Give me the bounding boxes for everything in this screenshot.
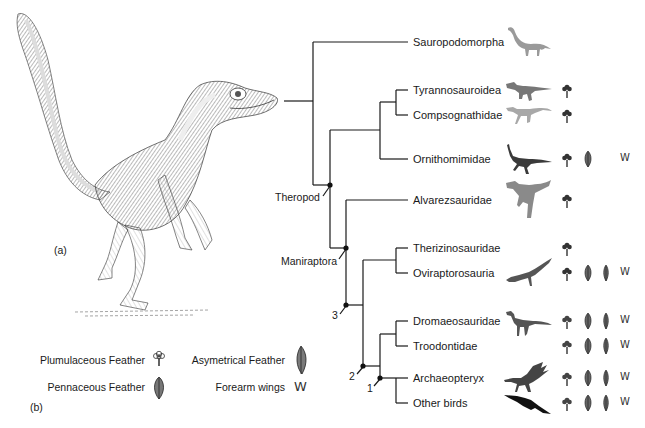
plumulaceous-feather-icon xyxy=(561,153,573,167)
maniraptora-node xyxy=(343,245,348,250)
pennaceous-feather-icon xyxy=(583,337,593,355)
forearm-wings-icon: W xyxy=(620,152,630,163)
pennaceous-feather-icon xyxy=(583,394,593,412)
pennaceous-feather-icon xyxy=(583,369,593,387)
taxon-compsognathidae: Compsognathidae xyxy=(413,109,502,122)
node-1 xyxy=(377,375,382,380)
archaeopteryx-silhouette-icon xyxy=(503,362,553,394)
forearm-wings-icon: W xyxy=(620,371,630,382)
taxon-oviraptorosauria: Oviraptorosauria xyxy=(413,267,494,280)
asymmetrical-feather-icon xyxy=(601,264,610,282)
oviraptorosaur-silhouette-icon xyxy=(505,258,553,288)
plumulaceous-feather-icon xyxy=(561,340,573,354)
tyrannosaur-silhouette-icon xyxy=(505,81,553,103)
forearm-wings-icon: W xyxy=(620,314,630,325)
plumulaceous-feather-icon xyxy=(561,372,573,386)
plumulaceous-feather-icon xyxy=(561,315,573,329)
node-3 xyxy=(343,302,348,307)
taxon-tyrannosauroidea: Tyrannosauroidea xyxy=(413,84,501,97)
node-label-theropod: Theropod xyxy=(275,191,320,203)
ornithomimid-silhouette-icon xyxy=(505,144,553,176)
pennaceous-feather-icon xyxy=(583,150,593,168)
forearm-wings-icon: W xyxy=(620,266,630,277)
plumulaceous-feather-icon xyxy=(561,267,573,281)
compsognathid-silhouette-icon xyxy=(505,105,553,127)
taxon-alvarezsauridae: Alvarezsauridae xyxy=(413,194,492,207)
sauropod-silhouette-icon xyxy=(505,26,555,58)
asymmetrical-feather-icon xyxy=(601,337,610,355)
taxon-other-birds: Other birds xyxy=(413,397,467,410)
alvarezsaurid-silhouette-icon xyxy=(505,180,553,220)
asymmetrical-feather-icon xyxy=(601,312,610,330)
taxon-therizinosauridae: Therizinosauridae xyxy=(413,242,500,255)
flying-bird-silhouette-icon xyxy=(503,392,553,416)
taxon-archaeopteryx: Archaeopteryx xyxy=(413,372,484,385)
asymmetrical-feather-icon xyxy=(601,394,610,412)
plumulaceous-feather-icon xyxy=(561,109,573,123)
node-2 xyxy=(360,363,365,368)
plumulaceous-feather-icon xyxy=(561,397,573,411)
plumulaceous-feather-icon xyxy=(561,194,573,208)
taxon-ornithomimidae: Ornithomimidae xyxy=(413,153,491,166)
node-label-maniraptora: Maniraptora xyxy=(281,255,337,267)
node-label-2: 2 xyxy=(349,370,355,382)
taxon-dromaeosauridae: Dromaeosauridae xyxy=(413,315,500,328)
asymmetrical-feather-icon xyxy=(601,369,610,387)
forearm-wings-icon: W xyxy=(620,396,630,407)
dromaeosaur-silhouette-icon xyxy=(505,310,553,338)
taxon-sauropodomorpha: Sauropodomorpha xyxy=(413,36,504,49)
node-label-3: 3 xyxy=(332,309,338,321)
pennaceous-feather-icon xyxy=(583,312,593,330)
theropod-node xyxy=(327,182,332,187)
pennaceous-feather-icon xyxy=(583,264,593,282)
plumulaceous-feather-icon xyxy=(561,84,573,98)
node-label-1: 1 xyxy=(367,382,373,394)
forearm-wings-icon: W xyxy=(620,339,630,350)
plumulaceous-feather-icon xyxy=(561,242,573,256)
taxon-troodontidae: Troodontidae xyxy=(413,340,477,353)
